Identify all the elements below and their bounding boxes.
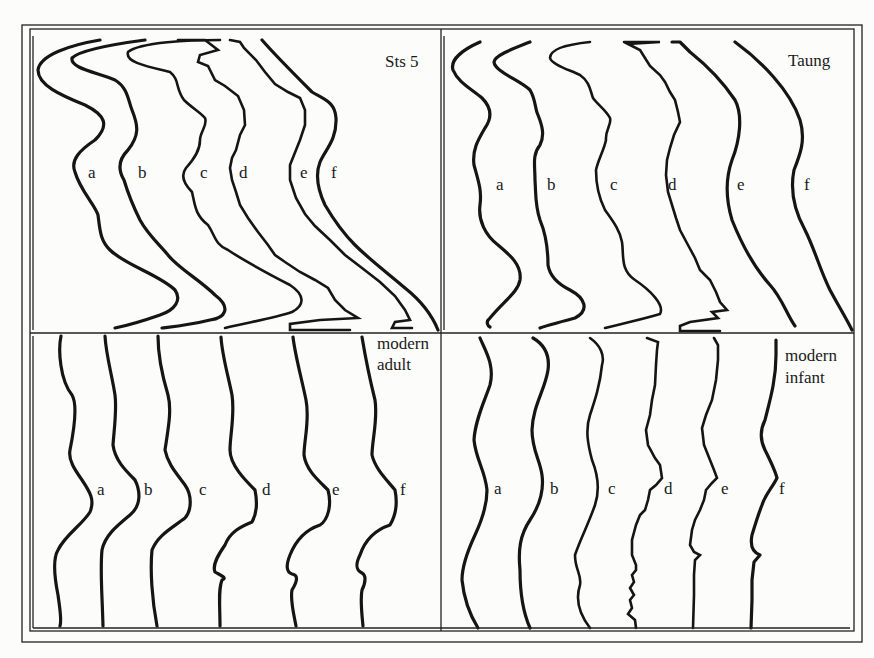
panel-title-line-2: infant (785, 368, 825, 387)
panel-taung: Taung a b c d e f (453, 42, 852, 331)
curve-label-c: c (200, 163, 208, 182)
panel-title: Taung (788, 51, 831, 70)
profile-curve-a (453, 42, 521, 327)
panel-modern-infant: modern infant a b c d e f (462, 338, 837, 628)
profile-curve-d (628, 338, 662, 628)
profile-curve-a (55, 336, 92, 626)
curve-label-d: d (262, 480, 271, 499)
profile-curve-c (550, 42, 661, 328)
curve-label-f: f (804, 175, 810, 194)
panel-title-line-2: adult (377, 355, 411, 374)
curve-label-a: a (494, 479, 502, 498)
profile-curve-b (101, 336, 139, 626)
profile-curve-c (151, 336, 190, 626)
curve-label-b: b (547, 175, 556, 194)
panel-sts5: Sts 5 a b c d e f (38, 40, 438, 330)
profile-curve-f (262, 40, 438, 330)
curve-label-e: e (721, 479, 729, 498)
panel-modern-adult: modern adult a b c d e f (55, 334, 430, 626)
profile-curve-a (38, 40, 178, 328)
profile-curve-c (575, 338, 603, 628)
curve-label-e: e (737, 175, 745, 194)
curve-label-a: a (88, 163, 96, 182)
curve-label-c: c (199, 480, 207, 499)
curve-label-c: c (610, 175, 618, 194)
profile-curve-f (751, 340, 777, 628)
curve-label-e: e (332, 480, 340, 499)
curve-label-c: c (608, 479, 616, 498)
profile-curve-f (735, 42, 852, 330)
curve-label-b: b (144, 480, 153, 499)
profile-curve-e (672, 42, 795, 326)
curve-label-b: b (550, 479, 559, 498)
profile-curve-d (214, 337, 256, 626)
profile-curve-b (494, 42, 584, 328)
panel-title: Sts 5 (385, 52, 419, 71)
panel-title-line-1: modern (377, 334, 429, 353)
profile-curve-e (287, 337, 329, 626)
profile-curve-e (690, 338, 718, 628)
profile-curve-b (72, 40, 225, 328)
curve-label-f: f (400, 480, 406, 499)
curve-label-d: d (239, 163, 248, 182)
profile-comparison-figure: Sts 5 a b c d e f Taung a b c d e f mode… (0, 0, 874, 658)
profile-curve-a (462, 338, 491, 628)
curve-label-e: e (300, 163, 308, 182)
curve-label-f: f (779, 479, 785, 498)
profile-curve-b (519, 338, 548, 628)
curve-label-f: f (331, 163, 337, 182)
panel-title-line-1: modern (785, 346, 837, 365)
inner-frame (30, 29, 854, 631)
curve-label-b: b (138, 163, 147, 182)
curve-label-d: d (668, 175, 677, 194)
curve-label-a: a (97, 480, 105, 499)
profile-curve-f (357, 337, 397, 626)
curve-label-d: d (664, 479, 673, 498)
curve-label-a: a (496, 175, 504, 194)
